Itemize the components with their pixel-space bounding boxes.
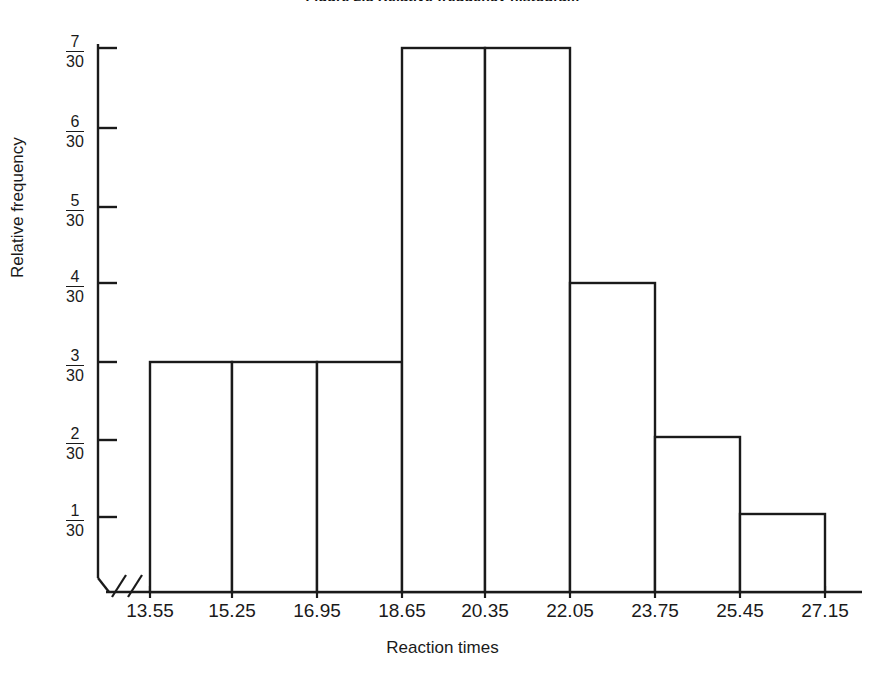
histogram-bar-2[interactable] [232,362,317,592]
histogram-bars [150,48,825,592]
y-axis-corner [98,578,109,592]
x-tick-label-22-05: 22.05 [525,600,615,622]
x-tick-label-18-65: 18.65 [357,600,447,622]
histogram-figure: Figure 2.8 Relative frequency histogram … [0,0,885,678]
x-tick-label-25-45: 25.45 [695,600,785,622]
x-tick-label-27-15: 27.15 [780,600,870,622]
x-tick-label-16-95: 16.95 [272,600,362,622]
x-tick-label-15-25: 15.25 [187,600,277,622]
histogram-bar-5[interactable] [485,48,570,592]
histogram-bar-7[interactable] [655,437,740,592]
histogram-bar-3[interactable] [317,362,402,592]
histogram-bar-1[interactable] [150,362,232,592]
x-tick-label-23-75: 23.75 [610,600,700,622]
x-tick-label-13-55: 13.55 [105,600,195,622]
axis-break-icon [112,575,142,597]
histogram-bar-4[interactable] [402,48,485,592]
plot-area [0,0,885,678]
histogram-bar-6[interactable] [570,283,655,592]
histogram-bar-8[interactable] [740,514,825,592]
x-tick-label-20-35: 20.35 [440,600,530,622]
